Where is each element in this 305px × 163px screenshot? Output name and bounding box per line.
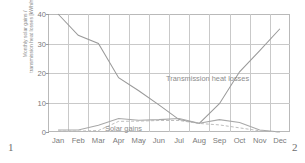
x-axis-tick-label: Jul	[174, 136, 184, 145]
y-axis-tick-mark	[46, 132, 49, 133]
series-layer	[48, 14, 290, 132]
y-axis-tick-mark	[46, 14, 49, 15]
y-axis-tick-label: 0	[30, 128, 46, 137]
x-axis-tick-label: Oct	[234, 136, 246, 145]
y-axis-tick-labels: 010203040	[28, 14, 46, 132]
y-axis-tick-mark	[46, 44, 49, 45]
x-axis-tick-label: Dec	[273, 136, 287, 145]
series-line	[58, 14, 280, 123]
series-line	[58, 121, 280, 133]
plot-area: Transmission heat losses Solar gains	[48, 14, 290, 132]
y-axis-tick-label: 10	[30, 98, 46, 107]
x-axis-tick-label: Sep	[213, 136, 227, 145]
annotation-solar-gains: Solar gains	[105, 124, 142, 133]
x-axis-tick-label: Jun	[153, 136, 165, 145]
page-marker-right: 2	[292, 141, 298, 153]
x-axis-tick-label: May	[132, 136, 146, 145]
annotation-transmission-heat-losses: Transmission heat losses	[166, 74, 249, 83]
y-axis-tick-label: 30	[30, 39, 46, 48]
x-axis-tick-label: Aug	[192, 136, 206, 145]
x-axis-tick-label: Nov	[253, 136, 267, 145]
x-axis-tick-label: Feb	[72, 136, 85, 145]
y-axis-tick-label: 20	[30, 69, 46, 78]
y-axis-tick-label: 40	[30, 10, 46, 19]
x-axis-tick-label: Mar	[92, 136, 105, 145]
y-axis-tick-mark	[46, 103, 49, 104]
page-marker-left: 1	[8, 141, 14, 153]
x-axis-tick-label: Apr	[113, 136, 125, 145]
x-axis-tick-label: Jan	[52, 136, 64, 145]
chart-screenshot: 1 2 Monthly solar gains / transmission h…	[0, 0, 305, 163]
y-axis-tick-mark	[46, 73, 49, 74]
